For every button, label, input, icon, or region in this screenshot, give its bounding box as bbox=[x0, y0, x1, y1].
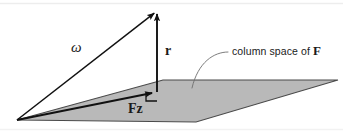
projection-diagram: ω r Fz column space of F bbox=[0, 0, 343, 132]
diagram-canvas bbox=[0, 0, 343, 132]
residual-label: r bbox=[165, 44, 171, 58]
omega-label: ω bbox=[71, 40, 82, 55]
column-space-text: column space of bbox=[232, 45, 313, 57]
column-space-plane bbox=[17, 80, 338, 122]
column-space-label: column space of F bbox=[232, 44, 321, 57]
projection-label: Fz bbox=[128, 102, 143, 116]
matrix-f-symbol: F bbox=[313, 43, 321, 58]
